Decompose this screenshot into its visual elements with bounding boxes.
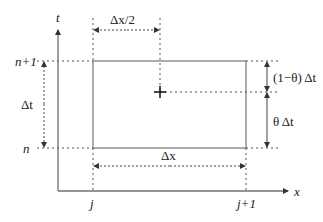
theta-dt-label: θ Δt — [273, 114, 294, 129]
finite-difference-diagram: t x n+1 n j j+1 Δx/2 Δx Δt (1−θ) Δt θ Δt — [0, 0, 323, 222]
t-axis-label: t — [56, 10, 60, 25]
half-dx-label: Δx/2 — [110, 12, 135, 27]
dt-label: Δt — [21, 97, 33, 112]
dx-label: Δx — [161, 148, 176, 163]
one-minus-theta-dt-label: (1−θ) Δt — [273, 70, 317, 85]
tick-j: j — [88, 196, 94, 211]
tick-n-plus-1: n+1 — [15, 54, 37, 69]
tick-j-plus-1: j+1 — [235, 196, 256, 211]
center-marker-icon — [154, 86, 166, 98]
dimension-arrows — [44, 30, 245, 166]
tick-n: n — [23, 141, 30, 156]
guide-lines — [37, 18, 280, 191]
x-axis-label: x — [293, 184, 300, 199]
grid-cell — [93, 61, 246, 148]
